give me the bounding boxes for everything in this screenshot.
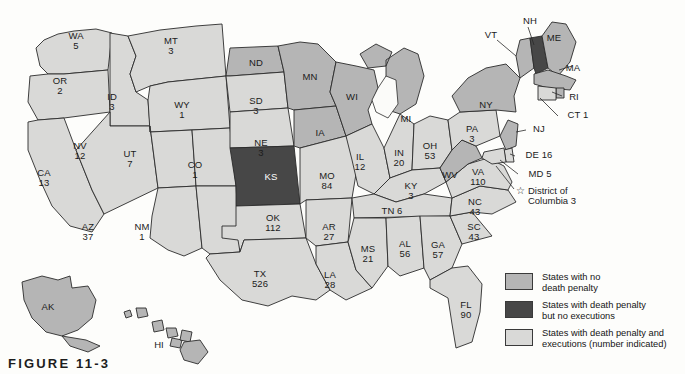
state-AL[interactable] <box>386 216 424 276</box>
state-WY[interactable] <box>148 76 230 132</box>
dc-label-line1: District of <box>528 185 568 196</box>
legend-label-no-death-penalty-line2: death penalty <box>542 283 600 294</box>
death-penalty-map-figure: WA 5 OR 2 CA 13 ID 3 NV 12 MT 3 WY 1 UT … <box>0 0 685 374</box>
state-UT[interactable] <box>150 126 196 188</box>
map-legend: States with no death penalty States with… <box>505 272 681 357</box>
state-KS[interactable] <box>230 146 300 206</box>
state-FL[interactable] <box>430 266 482 348</box>
state-ND[interactable] <box>226 46 284 76</box>
state-AK[interactable] <box>22 276 100 352</box>
legend-label-dp-ex-line2: executions (number indicated) <box>542 339 667 350</box>
state-SD[interactable] <box>226 72 288 112</box>
legend-label-dp-noex-line1: States with death penalty <box>542 300 646 311</box>
state-WA[interactable] <box>36 29 112 74</box>
state-PA[interactable] <box>448 110 500 150</box>
legend-item-death-penalty-with-executions: States with death penalty and executions… <box>505 328 681 349</box>
state-CO[interactable] <box>192 128 236 186</box>
state-NJ[interactable] <box>500 120 518 150</box>
legend-item-death-penalty-no-executions: States with death penalty but no executi… <box>505 300 681 321</box>
state-AR[interactable] <box>306 198 352 246</box>
legend-swatch-death-penalty-no-executions <box>505 301 533 318</box>
district-of-columbia-callout: ☆ District of Columbia 3 <box>516 186 576 207</box>
state-NY[interactable] <box>452 64 520 112</box>
state-NE[interactable] <box>230 108 294 148</box>
state-NM[interactable] <box>196 186 240 254</box>
figure-caption: FIGURE 11-3 <box>8 356 110 371</box>
state-RI[interactable] <box>556 88 564 98</box>
state-MN[interactable] <box>278 42 336 110</box>
dc-label-line2: Columbia 3 <box>528 195 576 206</box>
star-icon: ☆ <box>516 186 525 196</box>
legend-item-no-death-penalty: States with no death penalty <box>505 272 681 293</box>
state-CT[interactable] <box>538 86 556 100</box>
legend-label-dp-noex-line2: but no executions <box>542 311 646 322</box>
legend-label-no-death-penalty-line1: States with no <box>542 272 600 283</box>
legend-swatch-death-penalty-with-executions <box>505 329 533 346</box>
state-HI[interactable] <box>124 308 208 364</box>
legend-label-dp-ex-line1: States with death penalty and <box>542 328 667 339</box>
legend-swatch-no-death-penalty <box>505 273 533 290</box>
state-IN[interactable] <box>384 114 414 178</box>
state-OR[interactable] <box>28 70 110 120</box>
